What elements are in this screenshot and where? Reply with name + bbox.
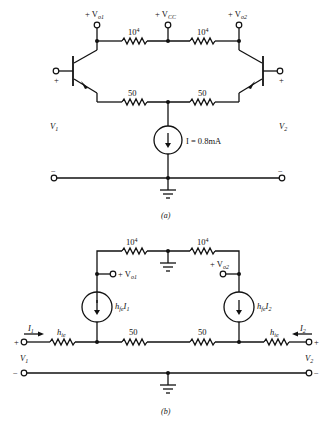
r-mid-right-label: 50 bbox=[198, 327, 207, 337]
vo2-label: + Vo2 bbox=[228, 9, 247, 20]
i2-label: I2 bbox=[299, 323, 306, 334]
resistor-top-left bbox=[122, 248, 147, 254]
v1-plus-terminal bbox=[53, 68, 59, 74]
v2-plus-sign-b: + bbox=[314, 337, 319, 347]
v1-minus-sign-b: − bbox=[13, 368, 18, 378]
figure-a-circuit bbox=[51, 22, 285, 198]
vo1-terminal bbox=[94, 22, 100, 28]
figure-b-circuit bbox=[21, 248, 312, 393]
caption-a: (a) bbox=[161, 211, 171, 220]
vo1-terminal-b bbox=[110, 271, 116, 277]
resistor-mid-right bbox=[190, 339, 215, 345]
v1-minus-terminal-b bbox=[21, 370, 27, 376]
transistor-q2-icon bbox=[239, 41, 278, 102]
resistor-emitter-right bbox=[190, 99, 215, 105]
resistor-collector-left bbox=[122, 38, 147, 44]
r-collector-left-label: 104 bbox=[128, 27, 140, 37]
r-emitter-right-label: 50 bbox=[198, 88, 207, 98]
r-mid-left-label: 50 bbox=[129, 327, 138, 337]
v1-plus-sign-b: + bbox=[14, 337, 19, 347]
resistor-emitter-left bbox=[122, 99, 147, 105]
resistor-top-right bbox=[190, 248, 215, 254]
v2-label-b: V2 bbox=[305, 353, 313, 364]
v1-minus-sign: − bbox=[51, 166, 56, 176]
v2-minus-terminal bbox=[279, 175, 285, 181]
v2-label: V2 bbox=[279, 121, 287, 132]
r-top-right-label: 104 bbox=[197, 237, 209, 247]
resistor-hie-right bbox=[264, 339, 289, 345]
resistor-mid-left bbox=[122, 339, 147, 345]
v2-minus-sign: − bbox=[278, 166, 283, 176]
vo2-terminal-b bbox=[220, 271, 226, 277]
v1-plus-sign: + bbox=[54, 75, 59, 85]
src-right-label: hfeI2 bbox=[257, 301, 271, 312]
resistor-hie-left bbox=[50, 339, 75, 345]
v1-label: V1 bbox=[50, 121, 58, 132]
v2-plus-terminal-b bbox=[306, 339, 312, 345]
vo1-label: + Vo1 bbox=[85, 9, 104, 20]
v1-label-b: V1 bbox=[20, 353, 28, 364]
hie-right-label: hie bbox=[270, 327, 279, 338]
r-collector-right-label: 104 bbox=[197, 27, 209, 37]
v2-plus-terminal bbox=[277, 68, 283, 74]
i1-label: I1 bbox=[27, 323, 34, 334]
vo2-label-b: + Vo2 bbox=[210, 259, 229, 270]
v2-minus-sign-b: − bbox=[314, 368, 319, 378]
caption-b: (b) bbox=[161, 407, 171, 416]
v2-plus-sign: + bbox=[279, 75, 284, 85]
v2-minus-terminal-b bbox=[306, 370, 312, 376]
differential-amplifier-diagram: + Vo1 + VCC + Vo2 104 104 50 50 + + V1 V… bbox=[0, 0, 333, 426]
current-source-label: I = 0.8mA bbox=[186, 136, 222, 146]
r-emitter-left-label: 50 bbox=[128, 88, 137, 98]
ground-icon bbox=[160, 178, 176, 198]
ground-icon-b-bottom bbox=[160, 373, 176, 393]
hie-left-label: hie bbox=[57, 327, 66, 338]
vcc-label: + VCC bbox=[155, 9, 177, 20]
vo1-label-b: + Vo1 bbox=[118, 269, 137, 280]
arrow-i1-icon bbox=[24, 332, 44, 337]
ground-icon-b-top bbox=[160, 251, 176, 271]
transistor-q1-icon bbox=[58, 41, 97, 102]
v1-minus-terminal bbox=[51, 175, 57, 181]
vcc-terminal bbox=[165, 22, 171, 28]
r-top-left-label: 104 bbox=[126, 237, 138, 247]
v1-plus-terminal-b bbox=[21, 339, 27, 345]
vo2-terminal bbox=[236, 22, 242, 28]
resistor-collector-right bbox=[190, 38, 215, 44]
src-left-label: hfeI1 bbox=[115, 301, 129, 312]
